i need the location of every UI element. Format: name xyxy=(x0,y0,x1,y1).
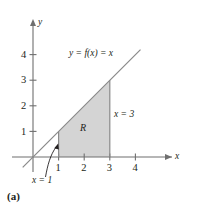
x-tick-label-2: 2 xyxy=(81,163,86,174)
y-tick-label-4: 4 xyxy=(21,50,26,61)
x-tick-label-3: 3 xyxy=(107,163,112,174)
x-axis-arrowhead xyxy=(165,154,172,160)
y-tick-label-1: 1 xyxy=(21,127,26,138)
y-tick-label-2: 2 xyxy=(21,101,26,112)
boundary-label-x-equals-1: x = 1 xyxy=(32,176,52,186)
x-tick-label-1: 1 xyxy=(56,163,61,174)
boundary-label-x-equals-3: x = 3 xyxy=(114,110,134,120)
x-tick-label-4: 4 xyxy=(132,163,137,174)
y-tick-label-3: 3 xyxy=(21,75,26,86)
coordinate-plot xyxy=(0,0,203,210)
function-equation-label: y = f(x) = x xyxy=(69,49,113,59)
shaded-region-R xyxy=(59,80,110,157)
y-axis-label: y xyxy=(38,18,42,28)
panel-label: (a) xyxy=(7,191,20,202)
y-axis-arrowhead xyxy=(30,19,36,26)
region-label-R: R xyxy=(80,123,86,133)
x-axis-label: x xyxy=(175,152,179,162)
figure-panel-a: 1 2 3 4 1 2 3 4 x y y = f(x) = x R x = 3… xyxy=(0,0,203,210)
